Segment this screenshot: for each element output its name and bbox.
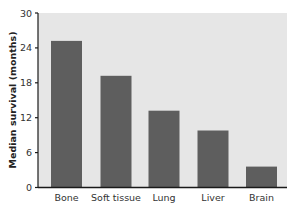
bar-soft-tissue <box>101 76 132 188</box>
y-tick-label: 18 <box>20 77 32 88</box>
y-tick-label: 6 <box>26 147 32 158</box>
y-tick-label: 30 <box>20 8 32 19</box>
bar-lung <box>149 111 180 188</box>
x-label-soft-tissue: Soft tissue <box>91 192 141 203</box>
y-axis-title: Median survival (months) <box>7 32 18 169</box>
bar-liver <box>198 131 229 188</box>
y-tick-label: 24 <box>20 42 32 53</box>
x-label-bone: Bone <box>54 192 78 203</box>
y-ticks-group: 0612182430 <box>20 8 38 194</box>
y-tick-label: 12 <box>20 112 32 123</box>
x-label-liver: Liver <box>201 192 224 203</box>
x-label-brain: Brain <box>249 192 274 203</box>
bar-brain <box>246 167 277 188</box>
x-label-lung: Lung <box>152 192 175 203</box>
y-tick-label: 0 <box>26 182 32 193</box>
bar-bone <box>51 41 82 188</box>
bar-chart: 0612182430 BoneSoft tissueLungLiverBrain… <box>0 0 297 208</box>
x-labels-group: BoneSoft tissueLungLiverBrain <box>54 192 274 203</box>
